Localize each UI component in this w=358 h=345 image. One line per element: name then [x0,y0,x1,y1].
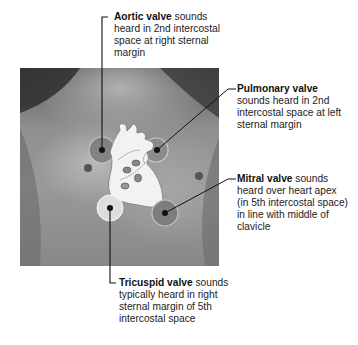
pulmonary-label: Pulmonary valve sounds heard in 2nd inte… [237,83,357,131]
aortic-text-0: sounds [172,11,208,22]
mitral-text-1: heard over heart apex [237,185,337,196]
mitral-text-0: sounds [293,173,329,184]
tricuspid-text-0: sounds [193,277,229,288]
pulmonary-title: Pulmonary valve [237,83,318,94]
pulmonary-leader [157,89,236,150]
mitral-title: Mitral valve [237,173,293,184]
mitral-text-2: (in 5th intercostal space) [237,197,348,208]
aortic-leader [102,17,108,150]
tricuspid-text-3: intercostal space [119,313,195,324]
aortic-text-2: space at right sternal [114,35,209,46]
pulmonary-text-3: sternal margin [237,119,302,130]
heart-illustration [109,124,163,208]
tricuspid-label: Tricuspid valve sounds typically heard i… [119,277,259,325]
tricuspid-title: Tricuspid valve [119,277,193,288]
pulmonary-text-2: intercostal space at left [237,107,341,118]
tricuspid-text-2: sternal margin of 5th [119,301,212,312]
aortic-title: Aortic valve [114,11,172,22]
mitral-text-4: clavicle [237,221,270,232]
aortic-text-3: margin [114,47,145,58]
aortic-text-1: heard in 2nd intercostal [114,23,220,34]
aortic-label: Aortic valve sounds heard in 2nd interco… [114,11,244,59]
mitral-label: Mitral valve sounds heard over heart ape… [237,173,358,233]
pulmonary-text-1: sounds heard in 2nd [237,95,329,106]
mitral-text-3: in line with middle of [237,209,329,220]
tricuspid-text-1: typically heard in right [119,289,218,300]
